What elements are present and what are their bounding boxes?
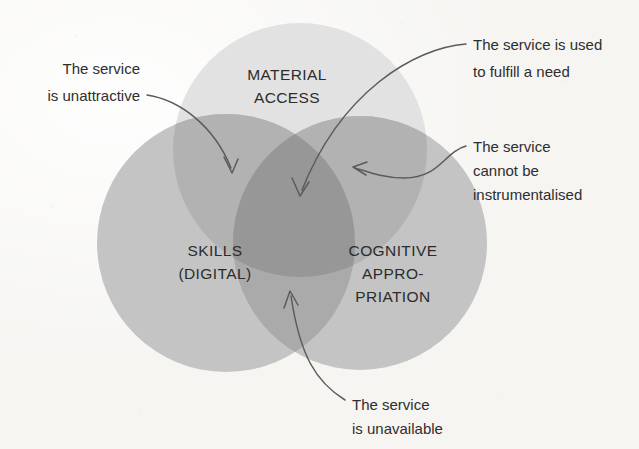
callout-unattractive-line1: The service bbox=[62, 60, 140, 77]
set-label-cognitive-line1: COGNITIVE bbox=[349, 242, 438, 259]
callout-fulfill-need-line1: The service is used bbox=[473, 36, 602, 53]
callout-unattractive-line2: is unattractive bbox=[47, 87, 140, 104]
set-label-skills-line1: SKILLS bbox=[188, 242, 243, 259]
set-label-skills-line2: (DIGITAL) bbox=[178, 265, 251, 282]
callout-not-instrumentalised-line2: cannot be bbox=[473, 162, 539, 179]
callout-unavailable-line2: is unavailable bbox=[352, 420, 443, 437]
set-label-material-access-line2: ACCESS bbox=[254, 89, 320, 106]
set-label-cognitive-line3: PRIATION bbox=[355, 288, 430, 305]
callout-fulfill-need-line2: to fulfill a need bbox=[473, 63, 570, 80]
venn-diagram: MATERIAL ACCESS SKILLS (DIGITAL) COGNITI… bbox=[0, 0, 639, 449]
callout-not-instrumentalised-line1: The service bbox=[473, 138, 551, 155]
callout-not-instrumentalised-line3: instrumentalised bbox=[473, 186, 582, 203]
set-label-cognitive-line2: APPRO- bbox=[362, 265, 424, 282]
callout-unavailable-line1: The service bbox=[352, 396, 430, 413]
diagram-canvas: MATERIAL ACCESS SKILLS (DIGITAL) COGNITI… bbox=[0, 0, 639, 449]
set-label-material-access-line1: MATERIAL bbox=[247, 66, 327, 83]
